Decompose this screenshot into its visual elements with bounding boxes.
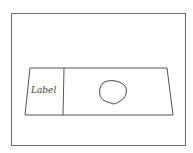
label-text: Label	[30, 85, 56, 95]
outer-frame	[12, 14, 186, 146]
label-divider	[63, 68, 64, 115]
slide-diagram: Label	[0, 0, 193, 153]
specimen-circle	[100, 81, 127, 104]
